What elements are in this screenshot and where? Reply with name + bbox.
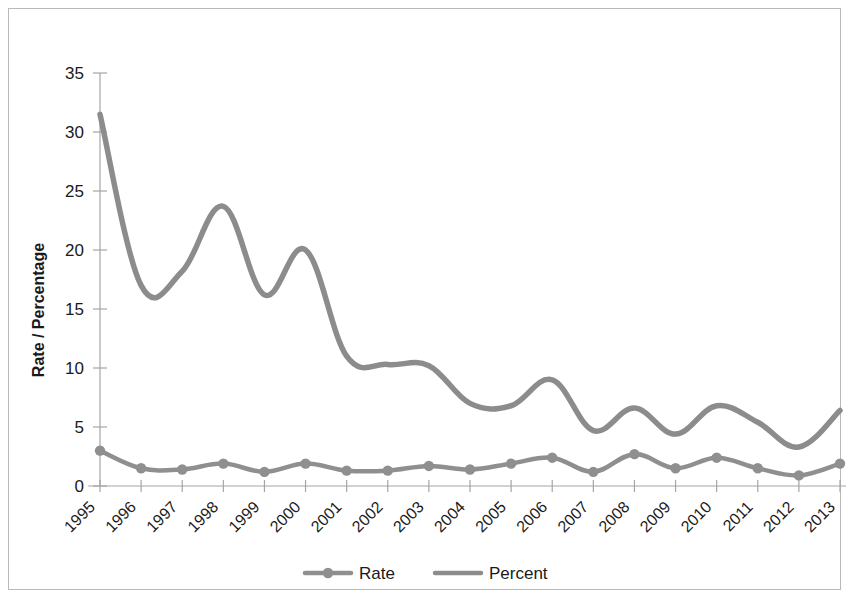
data-point-marker <box>465 464 475 474</box>
x-axis: 1995199619971998199920002001200220032004… <box>61 480 846 535</box>
x-tick-label: 1996 <box>102 498 139 535</box>
chart-legend: RatePercent <box>305 564 548 583</box>
x-tick-label: 2007 <box>554 498 591 535</box>
legend-item-rate[interactable]: Rate <box>305 564 395 583</box>
x-tick-label: 2003 <box>390 498 427 535</box>
data-point-marker <box>835 458 845 468</box>
data-point-marker <box>424 461 434 471</box>
x-tick-label: 2001 <box>308 498 345 535</box>
y-axis-title: Rate / Percentage <box>30 243 47 377</box>
plot-area <box>95 114 845 480</box>
y-tick-label: 20 <box>65 241 84 260</box>
y-axis-title-text: Rate / Percentage <box>30 243 47 377</box>
y-tick-label: 25 <box>65 182 84 201</box>
data-point-marker <box>136 463 146 473</box>
y-tick-label: 0 <box>75 477 84 496</box>
x-tick-label: 2008 <box>595 498 632 535</box>
x-tick-label: 2011 <box>720 498 756 534</box>
data-point-marker <box>670 463 680 473</box>
data-point-marker <box>711 452 721 462</box>
data-point-marker <box>341 465 351 475</box>
data-point-marker <box>629 449 639 459</box>
x-tick-label: 2010 <box>678 498 715 535</box>
line-chart: Rate / Percentage 05101520253035 1995199… <box>0 0 851 600</box>
y-tick-label: 5 <box>75 418 84 437</box>
chart-page: Rate / Percentage 05101520253035 1995199… <box>0 0 851 600</box>
series-line-percent <box>100 114 840 447</box>
data-point-marker <box>588 467 598 477</box>
data-point-marker <box>753 463 763 473</box>
x-tick-label: 2000 <box>266 498 303 535</box>
x-tick-label: 2013 <box>801 498 838 535</box>
data-point-marker <box>300 458 310 468</box>
y-tick-label: 15 <box>65 300 84 319</box>
x-tick-label: 1995 <box>61 498 98 535</box>
x-tick-label: 2006 <box>513 498 550 535</box>
x-tick-label: 2004 <box>431 498 468 535</box>
x-tick-label: 1997 <box>143 498 180 535</box>
data-point-marker <box>547 452 557 462</box>
data-point-marker <box>259 467 269 477</box>
data-point-marker <box>383 465 393 475</box>
x-tick-label: 2002 <box>349 498 386 535</box>
x-tick-label: 2005 <box>472 498 509 535</box>
legend-item-percent[interactable]: Percent <box>435 564 548 583</box>
y-tick-label: 35 <box>65 64 84 83</box>
legend-label: Rate <box>359 564 395 583</box>
data-point-marker <box>95 445 105 455</box>
x-tick-label: 1999 <box>225 498 262 535</box>
x-tick-label: 2012 <box>760 498 797 535</box>
legend-label: Percent <box>489 564 548 583</box>
data-point-marker <box>218 458 228 468</box>
data-point-marker <box>506 458 516 468</box>
legend-swatch-marker <box>323 568 333 578</box>
data-point-marker <box>177 464 187 474</box>
x-tick-label: 1998 <box>184 498 221 535</box>
data-point-marker <box>794 470 804 480</box>
x-tick-label: 2009 <box>636 498 673 535</box>
y-tick-label: 10 <box>65 359 84 378</box>
y-tick-label: 30 <box>65 123 84 142</box>
